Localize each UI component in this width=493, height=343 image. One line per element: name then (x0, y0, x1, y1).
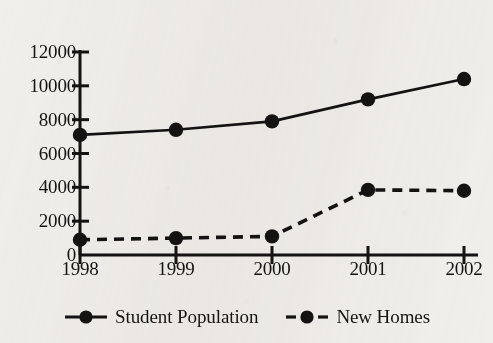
x-axis-tick-label: 2001 (328, 258, 408, 280)
axis-lines (80, 50, 478, 255)
y-axis-tick-label: 10000 (4, 76, 76, 95)
line-chart: 020004000600080001000012000 199819992000… (0, 0, 493, 343)
legend-label: Student Population (115, 306, 258, 328)
x-axis-tick-label: 1998 (40, 258, 120, 280)
x-axis-tick-label: 2002 (424, 258, 493, 280)
data-point (457, 72, 471, 86)
legend-marker-dot (79, 310, 92, 323)
series-layer (73, 72, 471, 247)
y-axis-tick-label: 2000 (4, 211, 76, 230)
x-axis-tick-label: 1999 (136, 258, 216, 280)
y-axis-tick-label: 12000 (4, 42, 76, 61)
data-point (361, 183, 375, 197)
legend-marker-dot (301, 310, 314, 323)
data-point (265, 229, 279, 243)
data-point (169, 123, 183, 137)
y-axis-tick-label: 6000 (4, 144, 76, 163)
legend-entry[interactable]: Student Population (63, 306, 258, 328)
legend-solid-line-icon (63, 308, 109, 326)
series-new-homes (73, 183, 471, 247)
series-student-population (73, 72, 471, 142)
data-point (361, 92, 375, 106)
data-point (457, 184, 471, 198)
legend-dashed-line-icon (284, 308, 330, 326)
data-point (265, 114, 279, 128)
y-axis-tick-labels: 020004000600080001000012000 (0, 0, 76, 343)
chart-legend: Student PopulationNew Homes (0, 300, 493, 334)
legend-entry[interactable]: New Homes (284, 306, 430, 328)
x-axis-tick-label: 2000 (232, 258, 312, 280)
data-point (169, 231, 183, 245)
legend-label: New Homes (336, 306, 430, 328)
y-axis-tick-label: 8000 (4, 110, 76, 129)
y-axis-tick-label: 4000 (4, 177, 76, 196)
